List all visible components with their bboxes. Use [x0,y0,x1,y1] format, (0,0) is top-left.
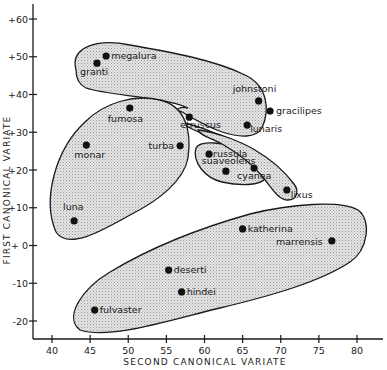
point-marker [71,217,78,224]
point-marker [239,225,246,232]
y-tick-label: +50 [8,51,28,62]
canonical-variate-scatter-plot: 404550556065707580 +60+50+40+30+20+10+ 0… [0,0,387,370]
point-marker [283,186,290,193]
x-tick-label: 60 [198,345,210,356]
x-tick-label: 65 [237,345,249,356]
x-tick-label: 50 [122,345,134,356]
point-marker [126,104,133,111]
point-marker [328,237,335,244]
point-marker [83,141,90,148]
point-label: granti [80,66,108,77]
point-marker [103,52,110,59]
data-point-katherina: katherina [239,223,293,234]
x-tick-label: 40 [46,345,58,356]
x-tick-label: 75 [313,345,325,356]
point-marker [177,142,184,149]
y-tick-label: -20 [12,316,28,327]
x-tick-label: 45 [84,345,96,356]
point-label: turba [149,140,175,151]
point-label: marrensis [276,236,323,247]
data-point-gracilipes: gracilipes [266,105,321,116]
point-marker [255,97,262,104]
y-tick-label: -10 [12,278,28,289]
x-tick-label: 55 [160,345,172,356]
x-axis-ticks: 404550556065707580 [46,335,363,356]
point-label: megalura [111,50,156,61]
data-point-lunaris: lunaris [244,121,283,134]
point-label: lixus [291,189,313,200]
point-label: lunaris [250,123,282,134]
point-marker [178,288,185,295]
point-marker [91,306,98,313]
y-tick-label: +60 [8,14,28,25]
x-tick-label: 80 [351,345,363,356]
point-label: luna [63,201,84,212]
point-label: katherina [248,223,293,234]
point-marker [266,108,273,115]
point-marker [165,266,172,273]
point-label: etruscus [180,119,221,130]
y-axis-title: FIRST CANONICAL VARIATE [2,115,12,264]
point-label: monar [74,149,105,160]
point-marker [222,168,229,175]
point-label: cyanea [237,170,271,181]
point-label: fulvaster [100,304,142,315]
data-point-megalura: megalura [103,50,157,61]
point-label: deserti [174,264,207,275]
x-axis-title: SECOND CANONICAL VARIATE [123,357,286,367]
y-tick-label: + 0 [11,240,28,251]
point-label: hindei [187,286,216,297]
x-tick-label: 70 [275,345,287,356]
y-tick-label: +40 [8,89,28,100]
point-label: johnstoni [232,83,277,94]
point-label: suaveolens [202,155,256,166]
point-label: fumosa [108,113,143,124]
point-label: gracilipes [276,105,322,116]
